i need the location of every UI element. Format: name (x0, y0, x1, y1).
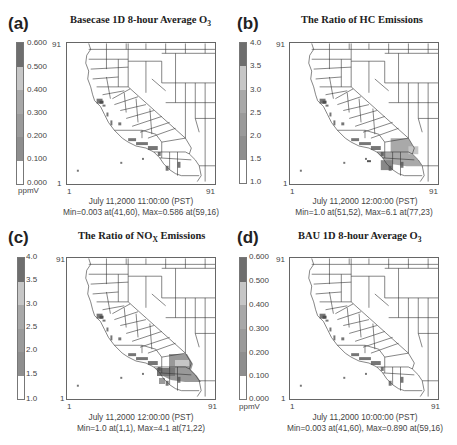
colorbar-segment (240, 282, 246, 306)
panel-title: The Ratio of HC Emissions (301, 14, 423, 28)
map-plot (289, 42, 439, 185)
colorbar-segment (240, 376, 246, 400)
colorbar-tick: 3.0 (250, 85, 261, 94)
california-map (290, 258, 438, 399)
colorbar-tick: 3.5 (26, 275, 37, 284)
colorbar-segment (17, 137, 23, 161)
colorbar-unit: ppmV (239, 402, 260, 411)
panel-a: (a) Basecase 1D 8-hour Average O3 0.600 … (0, 0, 228, 222)
colorbar-segment (240, 43, 246, 66)
colorbar-tick: 0.600 (27, 38, 47, 47)
colorbar-tick: 4.0 (26, 252, 37, 261)
colorbar-tick: 0.200 (27, 131, 47, 140)
colorbar (17, 257, 25, 400)
colorbar-segment (240, 352, 246, 376)
colorbar-segment (240, 90, 246, 113)
colorbar-tick: 3.0 (26, 299, 37, 308)
colorbar-tick: 1.5 (26, 369, 37, 378)
panel-label: (d) (237, 228, 259, 248)
colorbar-segment (240, 305, 246, 329)
california-map (290, 43, 438, 184)
colorbar-tick: 0.600 (249, 252, 269, 261)
colorbar-tick: 0.300 (249, 324, 269, 333)
colorbar-tick: 2.0 (26, 345, 37, 354)
colorbar-segment (240, 66, 246, 89)
colorbar-segment (240, 329, 246, 353)
y-axis-bottom-label: 1 (60, 394, 64, 403)
colorbar (16, 42, 24, 185)
x-axis-right-label: 91 (208, 402, 217, 411)
colorbar-segment (18, 282, 24, 306)
colorbar-segment (240, 136, 246, 159)
california-map (67, 258, 215, 399)
y-axis-bottom-label: 1 (57, 179, 61, 188)
panel-title: BAU 1D 8-hour Average O3 (298, 230, 422, 244)
colorbar-segment (17, 90, 23, 114)
x-axis-left-label: 1 (290, 402, 294, 411)
timestamp: July 11,2000 11:00:00 (PST) (66, 196, 216, 206)
colorbar-segment (18, 258, 24, 282)
colorbar-segment (17, 161, 23, 185)
min-max-text: Min=1.0 at(1,1), Max=4.1 at(71,22) (62, 423, 220, 433)
colorbar-tick: 0.100 (249, 371, 269, 380)
colorbar-segment (17, 43, 23, 67)
timestamp: July 11,2000 10:00:00 (PST) (290, 412, 440, 422)
min-max-text: Min=1.0 at(51,52), Max=6.1 at(77,23) (284, 207, 444, 217)
x-axis-right-label: 91 (429, 187, 438, 196)
y-axis-bottom-label: 1 (283, 179, 287, 188)
x-axis-left-label: 1 (67, 187, 71, 196)
x-axis-left-label: 1 (67, 402, 71, 411)
panel-title: Basecase 1D 8-hour Average O3 (70, 14, 211, 28)
panel-title: The Ratio of NOX Emissions (78, 230, 205, 244)
colorbar-tick: 3.5 (250, 61, 261, 70)
timestamp: July 11,2000 12:00:00 (PST) (290, 196, 440, 206)
panel-label: (a) (8, 14, 29, 34)
colorbar-segment (240, 258, 246, 282)
map-plot (289, 257, 439, 400)
timestamp: July 11,2000 12:00:00 (PST) (66, 412, 216, 422)
map-plot (66, 42, 216, 185)
panel-label: (c) (8, 228, 29, 248)
x-axis-left-label: 1 (290, 187, 294, 196)
colorbar-unit: ppmV (18, 186, 39, 195)
colorbar-tick: 4.0 (250, 38, 261, 47)
colorbar-segment (18, 305, 24, 329)
colorbar-tick: 1.0 (250, 177, 261, 186)
colorbar-tick: 2.5 (26, 322, 37, 331)
min-max-text: Min=0.003 at(41,60), Max=0.890 at(59,16) (283, 423, 447, 433)
y-axis-top-label: 91 (276, 255, 285, 264)
colorbar-segment (240, 160, 246, 183)
panel-c: (c) The Ratio of NOX Emissions 4.0 3.5 3… (0, 222, 228, 444)
panel-b: (b) The Ratio of HC Emissions 4.0 3.5 3.… (228, 0, 456, 222)
colorbar-tick: 0.500 (249, 276, 269, 285)
colorbar-tick: 0.400 (27, 85, 47, 94)
colorbar-tick: 0.100 (27, 154, 47, 163)
panel-d: (d) BAU 1D 8-hour Average O3 0.600 0.500… (228, 222, 456, 444)
colorbar-segment (17, 114, 23, 138)
colorbar-segment (240, 113, 246, 136)
colorbar-segment (18, 376, 24, 400)
y-axis-top-label: 91 (52, 40, 61, 49)
colorbar-segment (18, 352, 24, 376)
colorbar (239, 42, 247, 184)
panel-label: (b) (237, 14, 259, 34)
california-map (67, 43, 215, 184)
y-axis-bottom-label: 1 (281, 394, 285, 403)
colorbar-segment (18, 329, 24, 353)
min-max-text: Min=0.003 at(41,60), Max=0.586 at(59,16) (62, 207, 220, 217)
y-axis-top-label: 91 (56, 255, 65, 264)
colorbar-tick: 0.400 (249, 300, 269, 309)
colorbar-segment (17, 67, 23, 91)
colorbar-tick: 1.0 (26, 394, 37, 403)
colorbar-tick: 2.5 (250, 108, 261, 117)
colorbar-tick: 0.500 (27, 62, 47, 71)
colorbar-tick: 0.300 (27, 108, 47, 117)
x-axis-right-label: 91 (431, 402, 440, 411)
colorbar (239, 257, 247, 400)
colorbar-tick: 1.5 (250, 154, 261, 163)
x-axis-right-label: 91 (206, 187, 215, 196)
map-plot (66, 257, 216, 400)
colorbar-tick: 0.200 (249, 348, 269, 357)
y-axis-top-label: 91 (276, 40, 285, 49)
colorbar-tick: 2.0 (250, 131, 261, 140)
